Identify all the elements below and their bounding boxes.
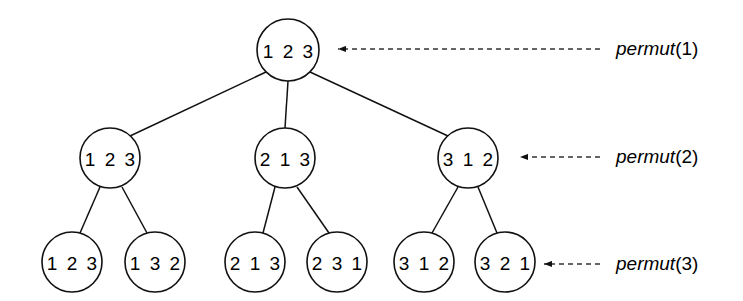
node-label: 3 1 2: [443, 149, 495, 170]
tree-node[interactable]: 3 2 1: [475, 232, 535, 292]
callout-label-function: permut: [616, 253, 675, 274]
node-label: 1 2 3: [263, 41, 315, 62]
node-label: 1 2 3: [47, 253, 99, 274]
node-label: 3 1 2: [399, 253, 451, 274]
callout-label-argument: (2): [675, 146, 698, 167]
callout-label-function: permut: [616, 146, 675, 167]
tree-edge: [130, 72, 266, 136]
tree-node[interactable]: 2 1 3: [225, 232, 285, 292]
callout-label: permut(2): [616, 146, 698, 168]
node-label: 1 3 2: [130, 253, 182, 274]
node-label: 1 2 3: [85, 149, 137, 170]
node-label: 2 1 3: [260, 149, 312, 170]
tree-edge: [80, 187, 100, 233]
tree-edge: [263, 187, 275, 233]
tree-edge: [285, 81, 288, 128]
callout-label-argument: (1): [675, 38, 698, 59]
tree-node[interactable]: 1 2 3: [80, 128, 140, 188]
callout-label-argument: (3): [675, 253, 698, 274]
node-label: 2 1 3: [230, 253, 282, 274]
tree-nodes: 1 2 31 2 32 1 33 1 21 2 31 3 22 1 32 3 1…: [42, 19, 535, 292]
callout-label: permut(3): [616, 253, 698, 275]
tree-node[interactable]: 2 3 1: [307, 232, 367, 292]
permutation-tree-diagram: 1 2 31 2 32 1 33 1 21 2 31 3 22 1 32 3 1…: [0, 0, 743, 301]
tree-node[interactable]: 1 2 3: [42, 232, 102, 292]
tree-edge: [122, 187, 147, 233]
tree-node[interactable]: 1 2 3: [257, 19, 319, 81]
tree-node[interactable]: 1 3 2: [125, 232, 185, 292]
tree-node[interactable]: 2 1 3: [255, 128, 315, 188]
tree-edge: [478, 187, 497, 233]
node-label: 2 3 1: [312, 253, 364, 274]
tree-node[interactable]: 3 1 2: [438, 128, 498, 188]
tree-edge: [310, 72, 448, 136]
callout-label-function: permut: [616, 38, 675, 59]
tree-edge: [297, 187, 329, 233]
callout-label: permut(1): [616, 38, 698, 60]
node-label: 3 2 1: [480, 253, 532, 274]
tree-node[interactable]: 3 1 2: [394, 232, 454, 292]
tree-edge: [432, 187, 458, 233]
